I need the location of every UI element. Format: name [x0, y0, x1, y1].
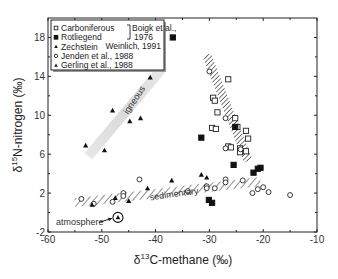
- open-circle-marker: [223, 180, 228, 185]
- y-tick-label: -2: [36, 227, 45, 238]
- open-circle-marker: [238, 147, 243, 152]
- open-circle-marker: [240, 178, 245, 183]
- open-circle-marker: [207, 69, 212, 74]
- x-tick-label: -30: [202, 234, 217, 245]
- x-axis-label: δ13C-methane (‰): [134, 252, 232, 267]
- open-circle-marker: [54, 54, 57, 57]
- filled-triangle-marker: [138, 116, 143, 121]
- x-tick-label: -50: [95, 234, 110, 245]
- filled-square-marker: [258, 165, 263, 170]
- filled-square-marker: [170, 35, 175, 40]
- open-circle-marker: [288, 193, 293, 198]
- open-circle-marker: [79, 196, 84, 201]
- open-square-marker: [215, 110, 220, 115]
- open-circle-marker: [110, 199, 115, 204]
- open-square-marker: [212, 98, 217, 103]
- region-bands: [74, 53, 261, 207]
- scatter-chart: -60-50-40-30-20-10-226101418 igneoussedi…: [0, 0, 338, 279]
- open-circle-marker: [137, 177, 142, 182]
- legend-ref-weinlich: Weinlich, 1991: [105, 41, 161, 51]
- legend-item-label: Gerling et al., 1988: [61, 60, 133, 70]
- filled-triangle-marker: [127, 119, 132, 124]
- filled-triangle-marker: [83, 143, 88, 148]
- filled-square-marker: [233, 124, 238, 129]
- igneous-label: igneous: [121, 84, 147, 116]
- open-circle-marker: [223, 116, 228, 121]
- open-circle-marker: [121, 194, 126, 199]
- filled-square-marker: [54, 36, 58, 40]
- y-tick-label: 2: [39, 188, 45, 199]
- y-tick-label: 10: [34, 110, 46, 121]
- x-tick-label: -40: [148, 234, 163, 245]
- sedimentary-label: sedimentary: [149, 186, 199, 203]
- x-tick-label: -20: [256, 234, 271, 245]
- open-square-marker: [54, 26, 58, 30]
- filled-square-marker: [199, 135, 204, 140]
- x-tick-label: -10: [310, 234, 325, 245]
- filled-triangle-marker: [110, 108, 115, 113]
- filled-triangle-marker: [199, 172, 204, 177]
- open-circle-marker: [223, 146, 228, 151]
- open-square-marker: [243, 128, 248, 133]
- open-square-marker: [243, 149, 248, 154]
- open-square-marker: [226, 77, 231, 82]
- open-square-marker: [228, 145, 233, 150]
- y-tick-label: 18: [34, 32, 46, 43]
- filled-triangle-marker: [102, 148, 107, 153]
- open-circle-marker: [266, 190, 271, 195]
- atmosphere-label: atmosphere: [56, 217, 104, 227]
- open-circle-marker: [212, 186, 217, 191]
- filled-square-marker: [231, 162, 236, 167]
- legend: CarboniferousRotliegendZechsteinJenden e…: [51, 20, 176, 72]
- open-square-marker: [213, 126, 218, 131]
- filled-square-marker: [209, 200, 214, 205]
- filled-triangle-marker: [145, 186, 150, 191]
- open-square-marker: [246, 136, 251, 141]
- y-tick-label: 14: [34, 71, 46, 82]
- filled-triangle-marker: [169, 178, 174, 183]
- y-tick-label: 6: [39, 149, 45, 160]
- open-circle-marker: [255, 187, 260, 192]
- open-circle-marker: [204, 186, 209, 191]
- filled-triangle-marker: [204, 175, 209, 180]
- y-axis-label: δ15N-nitrogen (‰): [10, 78, 25, 173]
- open-circle-marker: [250, 191, 255, 196]
- open-square-marker: [233, 116, 238, 121]
- open-circle-marker: [261, 185, 266, 190]
